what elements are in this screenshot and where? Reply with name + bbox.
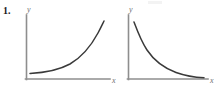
decay-curve [134,22,204,78]
growth-curve [30,21,104,74]
exercise-figure-page: 1. y x y x [0,0,216,109]
y-axis-label-decreasing: y [128,5,133,14]
exponential-growth-graph: y x [18,0,126,109]
exponential-decay-graph: y x [120,0,216,109]
exercise-number-label: 1. [3,6,11,16]
x-axis-label-increasing: x [111,76,116,85]
y-axis-label-increasing: y [26,5,31,14]
x-axis-label-decreasing: x [209,76,214,85]
